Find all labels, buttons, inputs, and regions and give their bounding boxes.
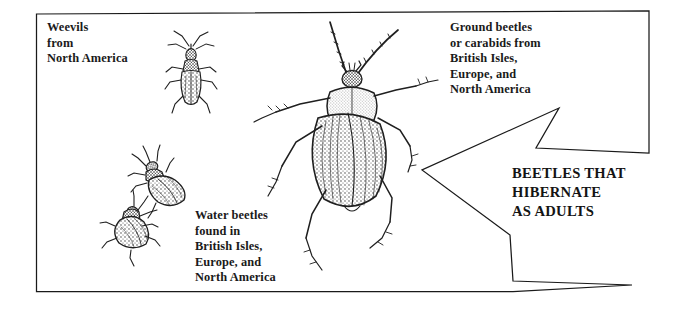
caption-ground-beetles: Ground beetles or carabids from British … — [450, 20, 541, 98]
caption-water-beetles: Water beetles found in British Isles, Eu… — [195, 208, 276, 286]
water-beetle-upper-illustration — [128, 145, 185, 218]
caption-weevils: Weevils from North America — [47, 20, 128, 67]
water-beetle-lower-illustration — [100, 190, 160, 266]
beetle-hibernation-figure: Weevils from North America Ground beetle… — [0, 0, 691, 309]
weevil-illustration — [165, 31, 217, 113]
arrow-label-beetles-that-hibernate-as-adults: BEETLES THAT HIBERNATE AS ADULTS — [512, 164, 626, 221]
ground-beetle-illustration — [254, 22, 438, 270]
